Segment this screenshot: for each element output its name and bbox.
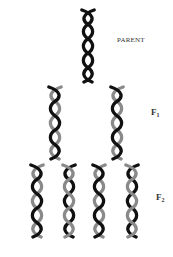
- f1-label: F1: [151, 107, 160, 118]
- f2-dna-helix-1-icon: [26, 163, 48, 239]
- f2-label: F2: [156, 192, 165, 203]
- parent-label: PARENT: [117, 36, 145, 44]
- f2-dna-helix-4-icon: [121, 163, 143, 239]
- f2-dna-helix-3-icon: [88, 163, 110, 239]
- parent-dna-helix-icon: [77, 8, 99, 84]
- f1-dna-helix-right-icon: [106, 85, 128, 161]
- f1-dna-helix-left-icon: [44, 85, 66, 161]
- f2-dna-helix-2-icon: [58, 163, 80, 239]
